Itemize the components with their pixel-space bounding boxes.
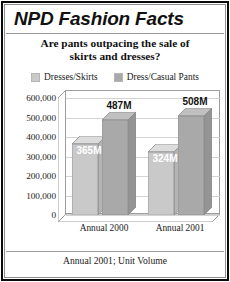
bar-data-label: 487M — [89, 100, 149, 111]
gridline — [66, 215, 220, 216]
y-tick-label: 300,000 — [26, 152, 56, 162]
bar-shape — [102, 112, 136, 215]
chart-subtitle: Are pants outpacing the sale of skirts a… — [8, 37, 222, 63]
legend-item-dresses-skirts: Dresses/Skirts — [31, 72, 98, 82]
y-axis: 0100,000200,000300,000400,000500,000600,… — [6, 90, 58, 222]
chart-3d-box: 365M487M324M508M — [58, 90, 220, 230]
bar-dress-casual-pants-annual-2000 — [102, 112, 136, 215]
legend-label-dress-casual-pants: Dress/Casual Pants — [127, 72, 199, 82]
chart-source-note: Annual 2001; Unit Volume — [6, 255, 224, 266]
chart-plot-area: 0100,000200,000300,000400,000500,000600,… — [6, 90, 224, 242]
bar-shape — [178, 108, 212, 215]
x-tick-label: Annual 2000 — [64, 223, 144, 233]
npd-fashion-facts-chart-figure: NPD Fashion Facts Are pants outpacing th… — [0, 0, 230, 282]
title-divider — [6, 33, 224, 34]
footer-divider — [6, 251, 224, 252]
y-tick-label: 100,000 — [26, 191, 56, 201]
x-tick-label: Annual 2001 — [140, 223, 220, 233]
bar-data-label: 508M — [165, 96, 225, 107]
x-axis-labels: Annual 2000Annual 2001 — [58, 223, 220, 239]
y-tick-label: 400,000 — [26, 132, 56, 142]
title-band: NPD Fashion Facts — [5, 5, 225, 32]
chart-subtitle-line1: Are pants outpacing the sale of — [8, 37, 222, 50]
chart-subtitle-line2: skirts and dresses? — [8, 50, 222, 63]
legend-label-dresses-skirts: Dresses/Skirts — [44, 72, 98, 82]
chart-legend: Dresses/Skirts Dress/Casual Pants — [8, 72, 222, 82]
legend-swatch-dresses-skirts — [31, 73, 40, 82]
y-tick-label: 200,000 — [26, 171, 56, 181]
legend-item-dress-casual-pants: Dress/Casual Pants — [114, 72, 199, 82]
y-tick-label: 600,000 — [26, 93, 56, 103]
legend-swatch-dress-casual-pants — [114, 73, 123, 82]
y-tick-label: 500,000 — [26, 113, 56, 123]
y-tick-label: 0 — [51, 210, 56, 220]
bar-dress-casual-pants-annual-2001 — [178, 108, 212, 215]
page-title: NPD Fashion Facts — [14, 8, 184, 30]
